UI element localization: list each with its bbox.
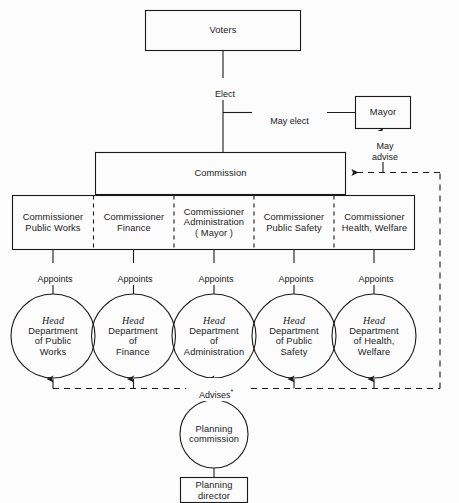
commissioner-cell-public-safety: Commissioner Public Safety	[254, 196, 334, 249]
appoints-label-5: Appoints	[347, 264, 405, 285]
planning-commission-label: Planning commission	[178, 400, 250, 468]
appoints-label-1: Appoints	[26, 264, 84, 285]
commissioner-cell-health-welfare: Commissioner Health, Welfare	[334, 196, 415, 249]
mayor-label: Mayor	[355, 96, 411, 129]
may-elect-label: May elect	[252, 106, 327, 127]
advises-label: Advises*	[186, 378, 246, 401]
organization-chart: Voters Elect May elect Mayor May advise …	[0, 0, 459, 503]
department-label-public-safety: Head Department of Public Safety	[252, 300, 336, 372]
appoints-label-2: Appoints	[106, 264, 164, 285]
advises-footnote-marker: *	[230, 388, 233, 395]
department-label-finance: Head Department of Finance	[91, 300, 175, 372]
commissioner-cell-administration: Commissioner Administration ( Mayor )	[174, 196, 254, 249]
elect-label: Elect	[197, 79, 253, 100]
department-label-public-works: Head Department of Public Works	[11, 300, 95, 372]
planning-director-label: Planning director	[180, 478, 248, 503]
voters-label: Voters	[145, 10, 301, 51]
may-advise-label: May advise	[360, 131, 410, 162]
commissioner-cell-public-works: Commissioner Public Works	[13, 196, 93, 249]
commission-label: Commission	[96, 153, 345, 194]
department-label-administration: Head Department of Administration	[170, 300, 258, 372]
appoints-label-3: Appoints	[187, 264, 245, 285]
appoints-label-4: Appoints	[267, 264, 325, 285]
department-label-health-welfare: Head Department of Health, Welfare	[332, 300, 416, 372]
commissioner-cell-finance: Commissioner Finance	[94, 196, 174, 249]
